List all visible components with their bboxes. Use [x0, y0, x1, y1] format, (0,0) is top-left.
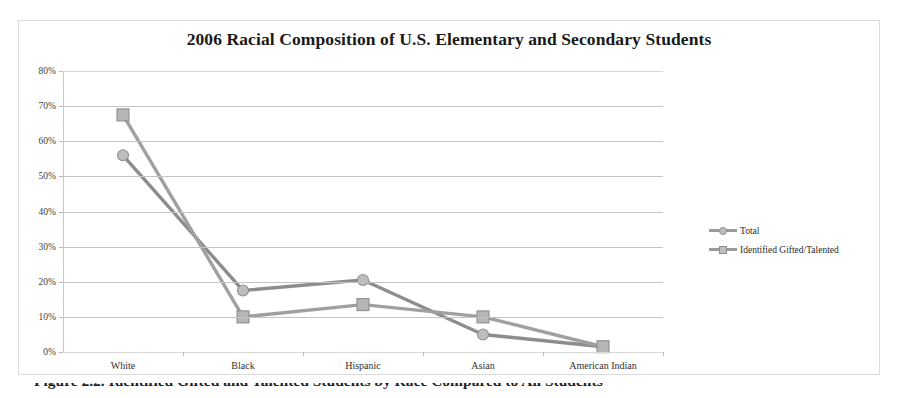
y-axis-tick-label: 50%	[39, 171, 56, 181]
chart-legend: Total Identified Gifted/Talented	[709, 221, 839, 259]
data-point-marker-circle[interactable]	[478, 329, 489, 340]
series-line-2	[123, 115, 603, 347]
y-tick-mark	[59, 71, 63, 72]
x-axis-category-label: Hispanic	[345, 360, 381, 371]
y-axis-tick-label: 40%	[39, 207, 56, 217]
y-axis-tick-label: 0%	[43, 347, 56, 357]
y-tick-mark	[59, 317, 63, 318]
gridline	[63, 212, 663, 213]
figure-caption-text: Figure 2.2. Identified Gifted and Talent…	[34, 383, 603, 390]
y-tick-mark	[59, 212, 63, 213]
x-tick-mark	[423, 352, 424, 356]
x-axis-category-label: Asian	[471, 360, 494, 371]
x-axis-category-label: Black	[231, 360, 254, 371]
data-point-marker-circle[interactable]	[238, 285, 249, 296]
plot-area: 0%10%20%30%40%50%60%70%80%WhiteBlackHisp…	[63, 71, 663, 352]
gridline	[63, 352, 663, 353]
y-axis-tick-label: 10%	[39, 312, 56, 322]
chart-title: 2006 Racial Composition of U.S. Elementa…	[19, 29, 879, 50]
gridline	[63, 247, 663, 248]
legend-marker-circle-icon	[709, 225, 737, 237]
gridline	[63, 176, 663, 177]
gridline	[63, 141, 663, 142]
x-axis-category-label: White	[111, 360, 135, 371]
gridline	[63, 106, 663, 107]
data-point-marker-square[interactable]	[117, 109, 129, 121]
data-point-marker-square[interactable]	[357, 299, 369, 311]
x-tick-mark	[663, 352, 664, 356]
legend-label: Total	[740, 226, 759, 236]
figure-caption-cropped: Figure 2.2. Identified Gifted and Talent…	[34, 383, 870, 398]
x-tick-mark	[183, 352, 184, 356]
y-axis-tick-label: 30%	[39, 242, 56, 252]
data-point-marker-circle[interactable]	[118, 150, 129, 161]
y-axis-tick-label: 60%	[39, 136, 56, 146]
legend-label: Identified Gifted/Talented	[740, 245, 839, 255]
gridline	[63, 282, 663, 283]
data-point-marker-square[interactable]	[597, 341, 609, 353]
y-tick-mark	[59, 176, 63, 177]
series-line-1	[123, 155, 603, 346]
x-tick-mark	[543, 352, 544, 356]
y-tick-mark	[59, 352, 63, 353]
y-tick-mark	[59, 141, 63, 142]
x-tick-mark	[303, 352, 304, 356]
y-axis-tick-label: 70%	[39, 101, 56, 111]
gridline	[63, 71, 663, 72]
y-tick-mark	[59, 247, 63, 248]
legend-item-total[interactable]: Total	[709, 221, 839, 240]
y-tick-mark	[59, 106, 63, 107]
y-axis-tick-label: 80%	[39, 66, 56, 76]
x-axis-category-label: American Indian	[569, 360, 636, 371]
legend-marker-square-icon	[709, 244, 737, 256]
legend-item-gifted-talented[interactable]: Identified Gifted/Talented	[709, 240, 839, 259]
y-tick-mark	[59, 282, 63, 283]
y-axis-tick-label: 20%	[39, 277, 56, 287]
chart-figure: 2006 Racial Composition of U.S. Elementa…	[18, 20, 880, 375]
gridline	[63, 317, 663, 318]
data-point-marker-circle[interactable]	[358, 274, 369, 285]
